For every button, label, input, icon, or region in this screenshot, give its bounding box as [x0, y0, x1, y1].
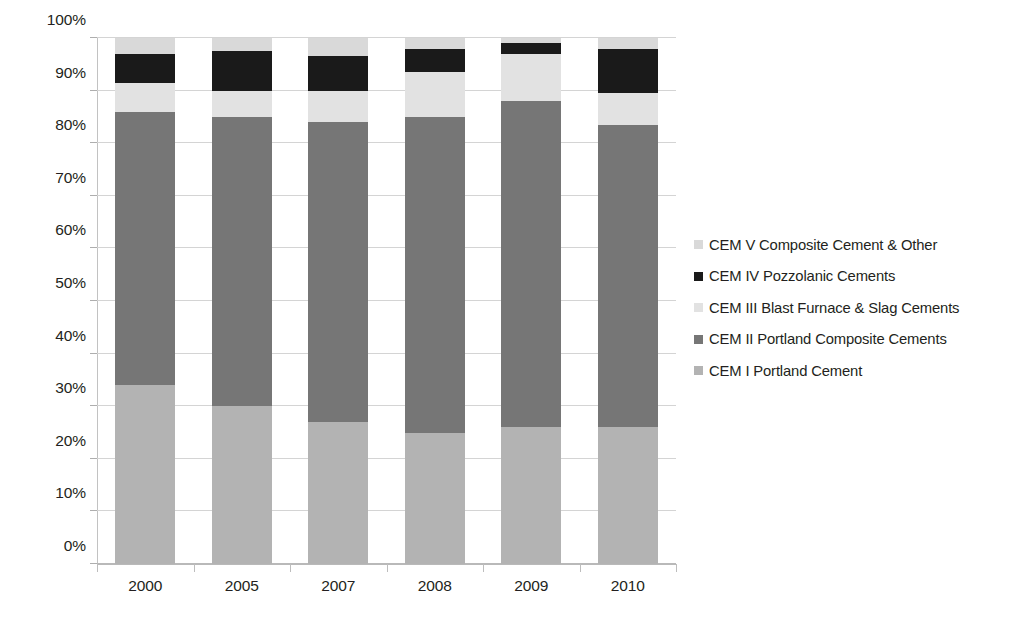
- bar-segment[interactable]: [212, 51, 272, 90]
- legend-item[interactable]: CEM V Composite Cement & Other: [694, 229, 1014, 261]
- y-tick-mark: [90, 90, 97, 91]
- x-axis-label: 2000: [128, 577, 162, 595]
- bar-segment[interactable]: [115, 83, 175, 112]
- bar-stack: [405, 38, 465, 564]
- y-tick-mark: [90, 142, 97, 143]
- legend-swatch-icon: [694, 272, 703, 281]
- y-axis-label: 50%: [55, 274, 86, 292]
- y-axis-label: 90%: [55, 64, 86, 82]
- legend-item[interactable]: CEM IV Pozzolanic Cements: [694, 261, 1014, 293]
- bar-segment[interactable]: [212, 38, 272, 51]
- bar-segment[interactable]: [212, 406, 272, 564]
- bar-segment[interactable]: [308, 38, 368, 56]
- y-tick-mark: [90, 458, 97, 459]
- bar-group[interactable]: [308, 38, 368, 564]
- bar-segment[interactable]: [598, 49, 658, 94]
- y-tick-mark: [90, 405, 97, 406]
- legend-label: CEM II Portland Composite Cements: [709, 331, 947, 347]
- y-axis-label: 80%: [55, 116, 86, 134]
- bar-segment[interactable]: [212, 117, 272, 406]
- legend-swatch-icon: [694, 366, 703, 375]
- bar-segment[interactable]: [115, 385, 175, 564]
- legend-label: CEM I Portland Cement: [709, 363, 862, 379]
- y-tick-mark: [90, 353, 97, 354]
- bar-segment[interactable]: [501, 38, 561, 43]
- x-axis-label: 2007: [321, 577, 355, 595]
- bar-segment[interactable]: [405, 38, 465, 49]
- y-tick-mark: [90, 195, 97, 196]
- x-axis-label: 2005: [225, 577, 259, 595]
- legend-swatch-icon: [694, 303, 703, 312]
- y-axis-label: 70%: [55, 169, 86, 187]
- bar-segment[interactable]: [115, 38, 175, 54]
- bar-group[interactable]: [115, 38, 175, 564]
- bar-stack: [598, 38, 658, 564]
- x-axis-label: 2009: [514, 577, 548, 595]
- bar-segment[interactable]: [115, 54, 175, 83]
- legend-swatch-icon: [694, 335, 703, 344]
- bar-stack: [308, 38, 368, 564]
- legend-label: CEM IV Pozzolanic Cements: [709, 268, 895, 284]
- x-tick-mark: [97, 564, 98, 572]
- x-tick-mark: [483, 564, 484, 572]
- bars-layer: [97, 38, 676, 564]
- chart-legend: CEM V Composite Cement & OtherCEM IV Poz…: [694, 229, 1014, 387]
- y-tick-mark: [90, 510, 97, 511]
- bar-segment[interactable]: [501, 54, 561, 101]
- bar-segment[interactable]: [115, 112, 175, 386]
- legend-label: CEM V Composite Cement & Other: [709, 237, 937, 253]
- bar-segment[interactable]: [405, 117, 465, 433]
- legend-swatch-icon: [694, 240, 703, 249]
- bar-segment[interactable]: [308, 422, 368, 564]
- y-tick-mark: [90, 563, 97, 564]
- bar-segment[interactable]: [501, 43, 561, 54]
- y-axis-label: 0%: [64, 537, 86, 555]
- plot-area: 0%10%20%30%40%50%60%70%80%90%100%: [97, 38, 676, 564]
- x-tick-mark: [387, 564, 388, 572]
- bar-segment[interactable]: [308, 91, 368, 123]
- legend-item[interactable]: CEM II Portland Composite Cements: [694, 324, 1014, 356]
- legend-item[interactable]: CEM III Blast Furnace & Slag Cements: [694, 292, 1014, 324]
- bar-segment[interactable]: [405, 49, 465, 73]
- y-axis-label: 30%: [55, 379, 86, 397]
- bar-stack: [501, 38, 561, 564]
- y-axis-label: 100%: [47, 11, 86, 29]
- y-axis-label: 10%: [55, 484, 86, 502]
- bar-segment[interactable]: [308, 56, 368, 90]
- bar-segment[interactable]: [405, 72, 465, 117]
- bar-segment[interactable]: [212, 91, 272, 117]
- y-axis-label: 20%: [55, 432, 86, 450]
- bar-stack: [212, 38, 272, 564]
- bar-group[interactable]: [598, 38, 658, 564]
- y-axis-label: 60%: [55, 221, 86, 239]
- x-axis-label: 2008: [418, 577, 452, 595]
- x-tick-mark: [290, 564, 291, 572]
- bar-group[interactable]: [501, 38, 561, 564]
- bar-segment[interactable]: [501, 427, 561, 564]
- x-axis-label: 2010: [611, 577, 645, 595]
- x-tick-mark: [580, 564, 581, 572]
- y-tick-mark: [90, 300, 97, 301]
- bar-group[interactable]: [405, 38, 465, 564]
- bar-segment[interactable]: [405, 433, 465, 565]
- bar-segment[interactable]: [598, 427, 658, 564]
- y-tick-mark: [90, 247, 97, 248]
- x-tick-mark: [194, 564, 195, 572]
- x-tick-mark: [676, 564, 677, 572]
- bar-segment[interactable]: [598, 38, 658, 49]
- bar-segment[interactable]: [598, 93, 658, 125]
- y-tick-mark: [90, 37, 97, 38]
- legend-item[interactable]: CEM I Portland Cement: [694, 355, 1014, 387]
- stacked-bar-chart: 0%10%20%30%40%50%60%70%80%90%100% 200020…: [0, 0, 1021, 624]
- bar-group[interactable]: [212, 38, 272, 564]
- bar-segment[interactable]: [501, 101, 561, 427]
- bar-stack: [115, 38, 175, 564]
- bar-segment[interactable]: [308, 122, 368, 422]
- y-axis-label: 40%: [55, 327, 86, 345]
- legend-label: CEM III Blast Furnace & Slag Cements: [709, 300, 959, 316]
- bar-segment[interactable]: [598, 125, 658, 427]
